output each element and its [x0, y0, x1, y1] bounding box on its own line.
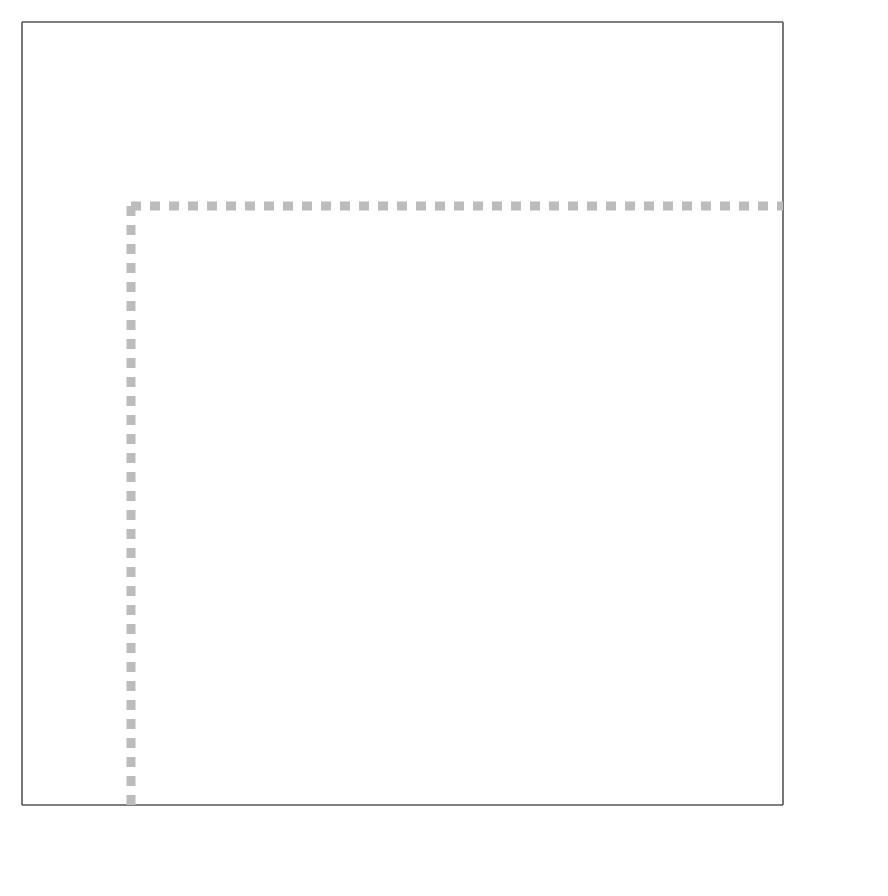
axes-group: [22, 22, 783, 805]
radiocarbon-calibration-chart: [0, 0, 888, 896]
guide-lines-group: [131, 206, 783, 805]
chart-canvas: [0, 0, 888, 896]
